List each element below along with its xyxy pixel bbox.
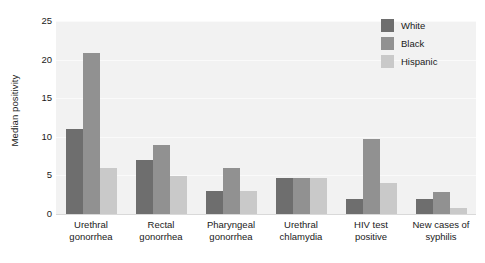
bar [66, 129, 83, 214]
x-tick-label-line: gonorrhea [57, 231, 125, 243]
bar [346, 199, 363, 214]
bar [310, 178, 327, 214]
y-tick-label: 25 [41, 16, 52, 26]
y-tick-label: 20 [41, 55, 52, 65]
x-tick-label-line: gonorrhea [197, 231, 265, 243]
legend-swatch [381, 19, 394, 32]
legend-item[interactable]: White [381, 19, 437, 32]
bar [153, 145, 170, 214]
bar [433, 192, 450, 214]
bar [240, 191, 257, 214]
bar [380, 183, 397, 214]
bar-group [266, 21, 336, 214]
x-tick-label-line: syphilis [407, 231, 475, 243]
bar [416, 199, 433, 214]
x-tick-label-line: chlamydia [267, 231, 335, 243]
x-tick-label: HIV testpositive [336, 219, 406, 259]
x-tick-label-line: HIV test [337, 219, 405, 231]
x-tick-label-line: Urethral [267, 219, 335, 231]
x-tick-label-line: Urethral [57, 219, 125, 231]
bar [100, 168, 117, 214]
bar [83, 53, 100, 214]
y-axis-title: Median positivity [6, 3, 24, 218]
x-axis-ticks: UrethralgonorrheaRectalgonorrheaPharynge… [56, 219, 476, 259]
bar [206, 191, 223, 214]
bar-group [126, 21, 196, 214]
legend-swatch [381, 55, 394, 68]
legend-item[interactable]: Hispanic [381, 55, 437, 68]
y-tick-label: 10 [41, 132, 52, 142]
legend-label: Black [401, 37, 424, 50]
x-tick-label-line: positive [337, 231, 405, 243]
y-axis-ticks: 0510152025 [24, 12, 52, 222]
x-axis-line [56, 214, 476, 215]
legend-swatch [381, 37, 394, 50]
y-tick-label: 15 [41, 93, 52, 103]
legend-item[interactable]: Black [381, 37, 437, 50]
y-tick-label: 5 [47, 170, 52, 180]
x-tick-label-line: New cases of [407, 219, 475, 231]
bar [223, 168, 240, 214]
legend-label: Hispanic [401, 55, 437, 68]
x-tick-label: Rectalgonorrhea [126, 219, 196, 259]
bar [136, 160, 153, 214]
y-tick-label: 0 [47, 209, 52, 219]
x-tick-label: Pharyngealgonorrhea [196, 219, 266, 259]
x-tick-label-line: Pharyngeal [197, 219, 265, 231]
bar [276, 178, 293, 214]
legend-label: White [401, 19, 425, 32]
bar-group [56, 21, 126, 214]
x-tick-label: New cases ofsyphilis [406, 219, 476, 259]
bar [363, 139, 380, 214]
x-tick-label: Urethralgonorrhea [56, 219, 126, 259]
x-tick-label-line: Rectal [127, 219, 195, 231]
x-tick-label-line: gonorrhea [127, 231, 195, 243]
legend: WhiteBlackHispanic [381, 19, 437, 68]
x-tick-label: Urethralchlamydia [266, 219, 336, 259]
bar-group [196, 21, 266, 214]
bar-chart-figure: Median positivity 0510152025 Urethralgon… [0, 0, 485, 263]
bar [170, 176, 187, 214]
bar [293, 178, 310, 214]
